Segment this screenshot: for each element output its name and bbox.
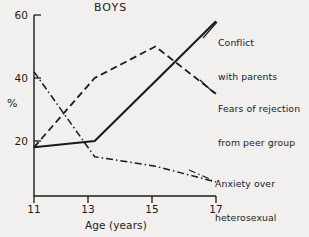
y-axis-title: % (7, 98, 18, 111)
y-axis-tick-label-20: 20 (6, 135, 28, 147)
leader-line-conflict (203, 22, 217, 38)
chart-title: BOYS (94, 2, 127, 15)
series-label-anxiety-line-1: Anxiety over (215, 178, 277, 189)
x-axis-tick-label-15: 15 (142, 203, 162, 215)
series-line-conflict-with-parents (34, 21, 216, 147)
x-axis-tick-label-13: 13 (78, 203, 98, 215)
x-axis-tick-label-11: 11 (24, 203, 44, 215)
series-label-fears-line-2: from peer group (218, 137, 300, 148)
series-label-fears-line-1: Fears of rejection (218, 103, 300, 114)
series-label-conflict-line-1: Conflict (218, 37, 277, 48)
series-line-fears-of-rejection (34, 47, 216, 148)
x-axis-title: Age (years) (85, 219, 147, 231)
leader-line-fears (200, 80, 214, 93)
chart-axis-lines (34, 15, 216, 196)
series-line-anxiety (34, 72, 216, 182)
chart-figure: BOYS 60 40 20 % 11 13 15 17 Age (years) … (0, 0, 309, 237)
y-axis-tick-label-40: 40 (6, 72, 28, 84)
leader-line-anxiety (189, 170, 212, 180)
series-label-anxiety-heterosexual-relationships: Anxiety over heterosexual relationships (215, 155, 277, 237)
y-axis-tick-label-60: 60 (6, 9, 28, 21)
series-label-anxiety-line-2: heterosexual (215, 212, 277, 223)
